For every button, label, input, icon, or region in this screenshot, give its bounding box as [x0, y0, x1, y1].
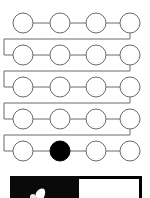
- intra-row-link-group: [33, 23, 120, 151]
- node-circle[interactable]: [86, 141, 106, 161]
- node-circle[interactable]: [86, 77, 106, 97]
- node-circle[interactable]: [86, 13, 106, 33]
- node-circle[interactable]: [50, 77, 70, 97]
- bottom-cropped-figure: [10, 176, 142, 198]
- serpentine-chain-diagram: [0, 0, 150, 178]
- node-circle[interactable]: [50, 13, 70, 33]
- node-circle[interactable]: [13, 45, 33, 65]
- node-circle-filled[interactable]: [50, 141, 70, 161]
- node-circle[interactable]: [120, 13, 140, 33]
- node-circle[interactable]: [120, 109, 140, 129]
- crop-light-panel: [79, 176, 142, 198]
- bottom-cropped-figure-inner: [10, 176, 142, 198]
- node-circle[interactable]: [13, 77, 33, 97]
- node-circle[interactable]: [120, 141, 140, 161]
- crop-white-blob-icon: [34, 187, 47, 198]
- figure-root: Serpentine node chain: [0, 0, 150, 198]
- node-circle[interactable]: [13, 13, 33, 33]
- node-circle[interactable]: [120, 45, 140, 65]
- crop-white-dot-icon: [30, 194, 36, 198]
- node-circle[interactable]: [86, 109, 106, 129]
- node-circle[interactable]: [13, 109, 33, 129]
- node-circle[interactable]: [86, 45, 106, 65]
- node-circle[interactable]: [13, 141, 33, 161]
- node-circle[interactable]: [50, 45, 70, 65]
- crop-dark-panel: [10, 176, 79, 198]
- node-circle[interactable]: [50, 109, 70, 129]
- node-circle[interactable]: [120, 77, 140, 97]
